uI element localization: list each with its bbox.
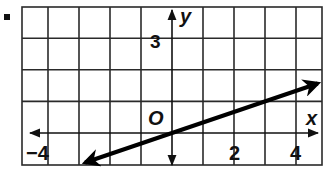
x-tick-label-neg4: −4: [26, 142, 50, 164]
problem-bullet: [4, 14, 10, 20]
x-tick-label-4: 4: [290, 142, 302, 164]
y-axis-label: y: [179, 5, 192, 27]
coordinate-graph: 3 y x O −4 2 4: [0, 0, 329, 172]
x-axis-label: x: [305, 107, 318, 129]
y-tick-label-3: 3: [150, 31, 161, 52]
origin-label: O: [148, 107, 164, 129]
x-tick-label-2: 2: [229, 142, 240, 164]
data-line: [85, 83, 318, 162]
